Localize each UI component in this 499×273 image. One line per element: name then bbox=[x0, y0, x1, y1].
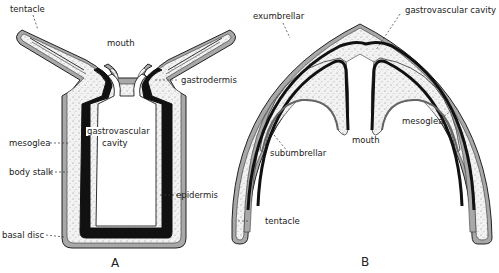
panel-label-b: B bbox=[361, 256, 369, 268]
label-subumbrellar: subumbrellar bbox=[270, 149, 326, 158]
label-mouth-b: mouth bbox=[352, 136, 380, 145]
label-mesoglea-b: mesoglea bbox=[402, 117, 443, 126]
label-gastrovascular: gastrovascular bbox=[86, 127, 151, 136]
panel-label-a: A bbox=[111, 257, 119, 269]
label-cavity: cavity bbox=[102, 139, 128, 148]
diagram-canvas bbox=[0, 0, 499, 273]
medusa-diagram bbox=[232, 14, 492, 244]
label-tentacle-a: tentacle bbox=[10, 5, 45, 14]
label-basal-disc: basal disc bbox=[2, 231, 44, 240]
label-body-stalk: body stalk bbox=[9, 168, 53, 177]
label-mouth-a: mouth bbox=[107, 39, 135, 48]
label-exumbrellar: exumbrellar bbox=[253, 12, 304, 21]
label-mesoglea-a: mesoglea bbox=[9, 139, 50, 148]
label-tentacle-b: tentacle bbox=[265, 217, 300, 226]
label-gastrovascular-cavity-b: gastrovascular cavity bbox=[405, 6, 496, 15]
label-gastrodermis: gastrodermis bbox=[181, 76, 237, 85]
label-epidermis: epidermis bbox=[176, 191, 218, 200]
